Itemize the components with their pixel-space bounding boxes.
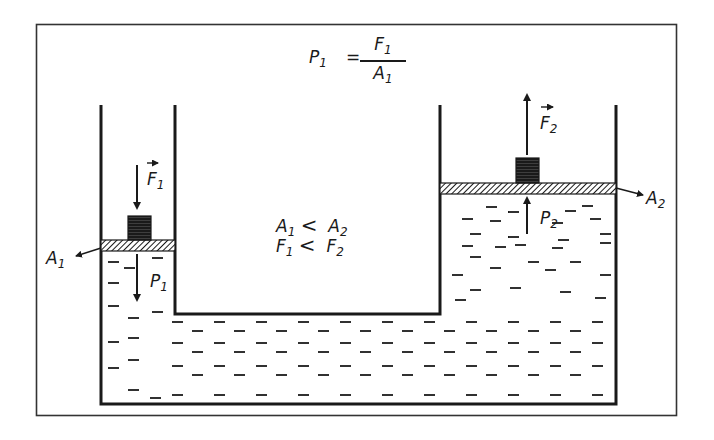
force-arrows [76,95,643,300]
formula-equals: = [346,49,360,66]
label-f2: F2 [540,115,557,135]
label-a1: A1 [46,250,65,270]
vector-marks [147,107,553,163]
left-mass [128,216,151,240]
vessel-walls [101,105,616,404]
formula-fraction: F1 A1 [360,36,406,85]
label-f1: F1 [147,171,164,191]
relation-force: F1 < F2 [276,235,344,258]
formula-denominator: A1 [373,65,392,85]
a1-pointer [76,248,101,256]
formula-lhs: P1 [309,49,327,69]
label-p1: P1 [150,273,168,293]
label-p2: P2 [540,210,558,230]
right-piston [440,183,616,194]
fluid-dashes [108,206,611,398]
right-mass [516,158,539,183]
formula-numerator: F1 [374,36,391,56]
fraction-bar [360,60,406,62]
left-piston [101,240,175,251]
label-a2: A2 [646,190,665,210]
a2-pointer [616,188,643,195]
